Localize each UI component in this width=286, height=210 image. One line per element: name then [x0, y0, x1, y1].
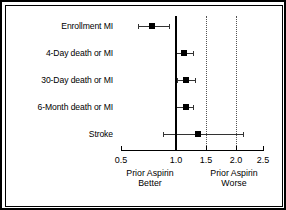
- reference-line-1-0: [175, 16, 177, 150]
- row-label-enrollment-mi: Enrollment MI: [61, 21, 113, 31]
- dotted-reference-line-1-5: [206, 16, 207, 150]
- whisker-cap: [177, 78, 178, 83]
- x-axis-tick-label-2-0: 2.0: [222, 155, 250, 165]
- point-estimate-marker: [149, 23, 155, 29]
- annotation-prior-aspirin-worse-line1: Prior Aspirin: [189, 168, 279, 179]
- x-axis-tick-2-0: [236, 146, 237, 151]
- x-axis-tick-1-0: [176, 146, 177, 151]
- point-estimate-marker: [195, 131, 201, 137]
- x-axis-tick-2-5: [263, 146, 264, 151]
- x-axis-tick-label-0-5: 0.5: [107, 155, 135, 165]
- whisker-cap: [193, 51, 194, 56]
- figure-inner-border: Enrollment MI4-Day death or MI30-Day dea…: [5, 5, 283, 207]
- whisker-cap: [163, 132, 164, 137]
- whisker-cap: [193, 105, 194, 110]
- point-estimate-marker: [183, 77, 189, 83]
- x-axis-tick-0-5: [121, 146, 122, 151]
- annotation-prior-aspirin-better-line1: Prior Aspirin: [105, 168, 195, 179]
- row-label-stroke: Stroke: [89, 129, 113, 139]
- point-estimate-marker: [181, 50, 187, 56]
- row-label-30-day-death-or-mi: 30-Day death or MI: [41, 75, 113, 85]
- x-axis-tick-label-1-5: 1.5: [192, 155, 220, 165]
- row-label-6-month-death-or-mi: 6-Month death or MI: [38, 102, 113, 112]
- x-axis-line: [121, 150, 263, 151]
- forest-plot: Enrollment MI4-Day death or MI30-Day dea…: [6, 6, 283, 207]
- row-label-4-day-death-or-mi: 4-Day death or MI: [46, 48, 113, 58]
- whisker-cap: [195, 78, 196, 83]
- whisker-cap: [169, 24, 170, 29]
- annotation-prior-aspirin-better-line2: Better: [105, 178, 195, 189]
- x-axis-tick-1-5: [206, 146, 207, 151]
- point-estimate-marker: [183, 104, 189, 110]
- annotation-prior-aspirin-worse-line2: Worse: [189, 178, 279, 189]
- whisker-cap: [138, 24, 139, 29]
- whisker-cap: [243, 132, 244, 137]
- x-axis-tick-label-2-5: 2.5: [249, 155, 277, 165]
- dotted-reference-line-2: [236, 16, 237, 150]
- x-axis-tick-label-1-0: 1.0: [162, 155, 190, 165]
- figure-outer-border: Enrollment MI4-Day death or MI30-Day dea…: [0, 0, 286, 210]
